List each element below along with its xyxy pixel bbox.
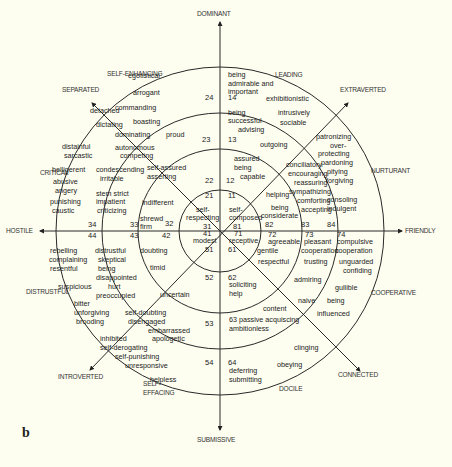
circumplex-svg (0, 0, 452, 467)
trait-term: assured (234, 155, 260, 163)
trait-term: distainful (62, 143, 90, 151)
segment-number: 72 (268, 230, 276, 239)
figure-label: b (22, 425, 30, 441)
segment-number: 53 (205, 319, 213, 328)
trait-term: being (228, 71, 246, 79)
octant-docile: DOCILE (279, 385, 302, 392)
trait-term: self-derogating (100, 344, 148, 352)
trait-term: resentful (50, 265, 78, 273)
trait-term: boasting (133, 118, 160, 126)
trait-term: sociable (280, 119, 306, 127)
trait-term: submitting (229, 376, 262, 384)
trait-term: being (98, 265, 116, 273)
trait-term: agreeable (268, 238, 300, 246)
segment-number: 73 (305, 230, 313, 239)
segment-number: 41 (203, 229, 211, 238)
trait-term: advising (238, 126, 264, 134)
trait-term: unresponsive (125, 362, 168, 370)
segment-number: 74 (337, 230, 345, 239)
axis-label-friendly: FRIENDLY (405, 227, 436, 234)
trait-term: gullible (335, 284, 357, 292)
trait-term: disengaged (128, 318, 165, 326)
octant-self-effacing-2: EFFACING (143, 389, 174, 396)
trait-term: distrustful (95, 247, 126, 255)
segment-number: 43 (130, 231, 138, 240)
trait-term: detached (90, 107, 120, 115)
segment-number: 13 (228, 135, 236, 144)
trait-term: impatient (96, 198, 125, 206)
trait-term: deferring (229, 367, 257, 375)
trait-term: abusive (53, 178, 78, 186)
trait-term: encouraging (288, 170, 328, 178)
trait-term: bitter (74, 300, 90, 308)
axis-label-dominant: DOMINANT (197, 10, 231, 17)
segment-number: 11 (228, 191, 236, 200)
trait-term: consoling (327, 196, 357, 204)
trait-term: sympathizing (289, 188, 331, 196)
trait-term: intrusively (278, 109, 310, 117)
trait-term: brooding (76, 318, 104, 326)
trait-term: punishing (50, 198, 81, 206)
trait-term: pleasant (304, 238, 331, 246)
segment-number: 84 (327, 220, 335, 229)
trait-term: composed (229, 214, 262, 222)
trait-term: respectful (258, 258, 289, 266)
trait-term: caustic (52, 207, 74, 215)
trait-term: rebelling (50, 247, 77, 255)
segment-number: 23 (202, 135, 210, 144)
trait-term: admiring (294, 276, 322, 284)
trait-term: obeying (277, 361, 302, 369)
trait-term: disappointed (96, 274, 137, 282)
trait-term: arrogant (133, 89, 160, 97)
segment-number: 51 (205, 245, 213, 254)
trait-term: self-doubting (125, 309, 166, 317)
trait-term: content (263, 305, 287, 313)
trait-term: uncertain (160, 291, 190, 299)
interpersonal-circumplex-diagram: DOMINANT SUBMISSIVE HOSTILE FRIENDLY SEP… (0, 0, 452, 467)
segment-number: 21 (205, 191, 213, 200)
trait-term: criticizing (97, 207, 127, 215)
trait-term: comforting (297, 197, 331, 205)
trait-term: gentile (257, 247, 278, 255)
trait-term: modest (193, 237, 217, 245)
trait-term: pardoning (321, 159, 353, 167)
trait-term: irritable (100, 175, 124, 183)
segment-number: 54 (205, 358, 213, 367)
trait-term: ambitionless (229, 325, 269, 333)
trait-term: helping (266, 191, 289, 199)
trait-term: dictating (96, 121, 123, 129)
trait-term: egotistical (128, 72, 160, 80)
trait-term: skeptical (98, 256, 126, 264)
trait-term: unguarded (339, 258, 373, 266)
octant-leading: LEADING (275, 71, 303, 78)
segment-number: 71 (234, 229, 242, 238)
segment-number: 32 (165, 219, 173, 228)
trait-term: self-assured (147, 164, 186, 172)
trait-term: timid (150, 264, 165, 272)
trait-term: apologetic (152, 335, 185, 343)
axis-label-introverted: INTROVERTED (58, 373, 103, 380)
segment-number: 62 (228, 273, 236, 282)
trait-term: belligerent (52, 166, 85, 174)
trait-term: indulgent (327, 205, 356, 213)
trait-term: successful (228, 117, 262, 125)
trait-term: doubting (140, 247, 168, 255)
trait-term: soliciting (229, 281, 257, 289)
trait-term: naive (298, 297, 315, 305)
segment-number: 24 (205, 93, 213, 102)
trait-term: exhibitionistic (266, 95, 309, 103)
trait-term: suspicious (58, 283, 92, 291)
trait-term: confiding (343, 267, 372, 275)
trait-term: patronizing (316, 133, 351, 141)
trait-term: firm (140, 223, 152, 231)
trait-term: proud (166, 131, 184, 139)
trait-term: cooperation (335, 247, 373, 255)
segment-number: 44 (88, 231, 96, 240)
trait-term: pitying (327, 168, 348, 176)
axis-label-separated: SEPARATED (62, 86, 99, 93)
trait-term: helpless (150, 376, 176, 384)
trait-term: being (234, 164, 252, 172)
axis-label-submissive: SUBMISSIVE (197, 436, 235, 443)
axis-label-extraverted: EXTRAVERTED (340, 86, 386, 93)
trait-term: 63 passive acquiscing (229, 316, 299, 324)
